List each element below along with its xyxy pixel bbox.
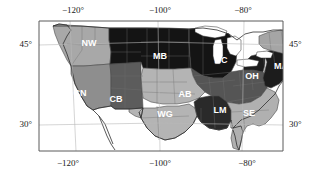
right-tick-label: 30° [289, 119, 315, 129]
region-label-SE: SE [243, 108, 255, 118]
region-label-MB: MB [153, 51, 167, 61]
top-tick-label: −120° [62, 5, 84, 15]
map-plot-area: NW CN CB MB NC OH MA NE AB WG LM SE [37, 20, 285, 152]
region-label-NW: NW [82, 38, 97, 48]
region-label-CB: CB [110, 94, 123, 104]
region-label-CN: CN [74, 88, 87, 98]
bottom-tick-label: −80° [238, 158, 256, 168]
left-tick-label: 30° [6, 119, 32, 129]
top-tick-label: −80° [234, 5, 252, 15]
region-MB [109, 28, 191, 69]
top-tick-label: −100° [149, 5, 171, 15]
region-label-LM: LM [214, 105, 227, 115]
climate-region-map-figure: −120° −100° −80° −120° −100° −80° 45° 30… [0, 0, 318, 176]
region-label-WG: WG [157, 109, 173, 119]
region-label-NC: NC [215, 55, 228, 65]
bottom-tick-label: −100° [149, 158, 171, 168]
left-tick-label: 45° [6, 39, 32, 49]
region-label-AB: AB [179, 89, 192, 99]
bottom-tick-label: −120° [57, 158, 79, 168]
region-label-OH: OH [245, 71, 259, 81]
right-tick-label: 45° [289, 39, 315, 49]
